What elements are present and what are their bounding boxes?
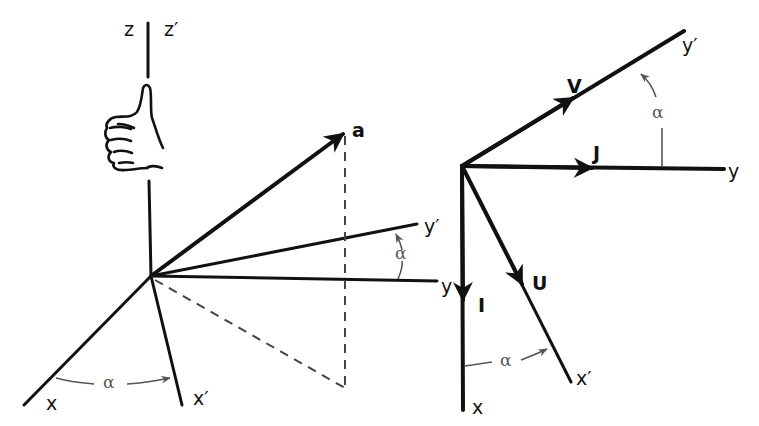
unit-vector-J <box>462 166 592 168</box>
unit-vector-V <box>462 98 573 166</box>
label-y-prime: y′ <box>424 215 440 237</box>
label-I: I <box>478 294 485 316</box>
left-panel: z z′ a y′ y x x′ <box>24 18 452 414</box>
label-vector-a: a <box>352 119 365 141</box>
x-prime-axis <box>151 276 182 405</box>
label-alpha-right-bottom: α <box>500 350 512 370</box>
label-y-prime-right: y′ <box>682 34 698 56</box>
label-U: U <box>532 272 547 294</box>
x-axis <box>24 276 151 405</box>
label-x-right: x <box>472 396 483 418</box>
projection-dashed-diagonal <box>155 280 345 388</box>
label-alpha-right-top: α <box>652 102 664 122</box>
angle-arrow-x-right <box>521 349 547 360</box>
label-x-prime-right: x′ <box>576 367 592 389</box>
angle-arc-y <box>398 261 402 279</box>
angle-arrow-x <box>127 378 170 384</box>
vector-a <box>151 134 343 276</box>
label-V: V <box>567 75 582 97</box>
label-y-right: y <box>728 160 739 182</box>
angle-arrow-y-right <box>641 74 656 97</box>
right-hand-thumb-up-icon <box>105 85 163 170</box>
right-panel: V J U I y′ y x x′ α α <box>462 31 739 418</box>
label-y: y <box>441 275 452 297</box>
rotation-diagram: z z′ a y′ y x x′ <box>0 0 759 426</box>
label-x: x <box>46 392 57 414</box>
y-axis <box>151 276 437 281</box>
label-alpha-left-top: α <box>395 243 407 263</box>
angle-tick-x-right <box>465 362 492 366</box>
label-z-prime: z′ <box>164 18 178 40</box>
label-alpha-left-bottom: α <box>103 372 115 392</box>
unit-vector-U <box>462 166 522 284</box>
unit-vector-I <box>462 166 463 300</box>
angle-arc-x <box>56 378 94 384</box>
y-prime-axis <box>151 224 417 276</box>
label-J: J <box>591 142 600 164</box>
z-axis-lower <box>149 181 151 276</box>
label-x-prime: x′ <box>193 387 209 409</box>
label-z: z <box>124 18 134 40</box>
